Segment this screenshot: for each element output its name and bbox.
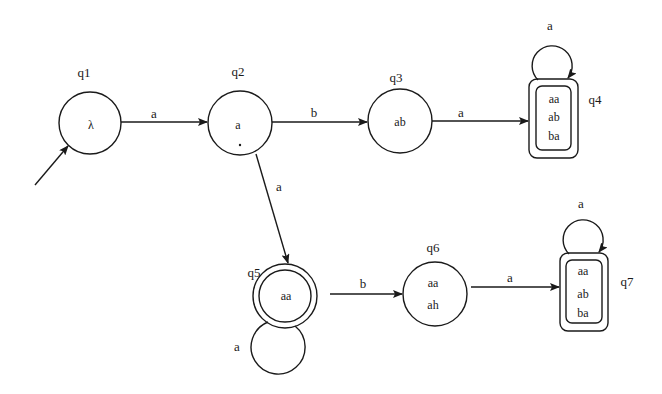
- q1-content: λ: [88, 119, 94, 131]
- edge-label-q2-q5: a: [276, 180, 282, 193]
- state-label-q7: q7: [621, 275, 634, 288]
- edge-label-q6-q7: a: [507, 271, 513, 284]
- q2-dot: [239, 144, 241, 146]
- q7-content-2: ab: [577, 288, 588, 300]
- state-label-q5: q5: [248, 266, 261, 279]
- q5-content: aa: [281, 290, 292, 302]
- q2-content: a: [235, 119, 240, 131]
- q4-content-2: ab: [548, 111, 559, 123]
- q4-content-3: ba: [548, 130, 559, 142]
- q3-content: ab: [394, 116, 405, 128]
- edge-label-q2-q3: b: [311, 106, 318, 119]
- loop-q5: [251, 322, 305, 374]
- loop-q4: [532, 46, 572, 80]
- q6-content-1: aa: [428, 277, 439, 289]
- q6-content-2: ah: [427, 299, 438, 311]
- state-label-q1: q1: [78, 66, 91, 79]
- state-label-q4: q4: [589, 93, 602, 106]
- start-arrow: [35, 146, 68, 185]
- q7-content-3: ba: [577, 307, 588, 319]
- state-q6-circle: [403, 262, 467, 326]
- edge-label-q1-q2: a: [151, 107, 157, 120]
- state-label-q3: q3: [390, 71, 403, 84]
- automaton-diagram: q1 q2 q3 q4 q5 q6 q7 λ a ab aa ab ba aa …: [0, 0, 662, 394]
- edge-label-q3-q4: a: [458, 106, 464, 119]
- edge-label-q5-loop: a: [234, 340, 240, 353]
- diagram-graphics: [0, 0, 662, 394]
- q7-content-1: aa: [578, 265, 589, 277]
- loop-q7: [563, 220, 603, 254]
- edge-q2-q5: [256, 154, 288, 263]
- edge-label-q7-loop: a: [578, 197, 584, 210]
- state-label-q6: q6: [427, 241, 440, 254]
- edge-label-q5-q6: b: [360, 277, 367, 290]
- state-label-q2: q2: [232, 65, 245, 78]
- edge-label-q4-loop: a: [547, 19, 553, 32]
- q4-content-1: aa: [549, 93, 560, 105]
